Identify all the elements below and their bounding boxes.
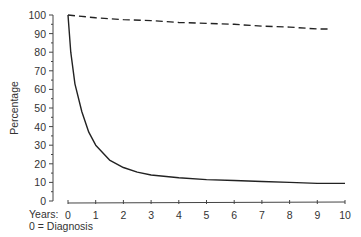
y-tick-label: 90 <box>34 28 46 40</box>
y-tick-label: 30 <box>34 139 46 151</box>
x-tick-label: 6 <box>231 209 237 221</box>
x-tick-label: 8 <box>287 209 293 221</box>
x-tick-label: 9 <box>314 209 320 221</box>
x-tick-label: 7 <box>259 209 265 221</box>
y-tick-label: 70 <box>34 65 46 77</box>
x-tick-label: 1 <box>93 209 99 221</box>
x-tick-label: 3 <box>148 209 154 221</box>
x-tick-label: 2 <box>120 209 126 221</box>
y-tick-label: 100 <box>28 9 46 21</box>
y-axis-title: Percentage <box>8 81 20 135</box>
y-tick-label: 50 <box>34 102 46 114</box>
y-tick-label: 80 <box>34 46 46 58</box>
y-tick-label: 20 <box>34 158 46 170</box>
line-chart: 0102030405060708090100012345678910Percen… <box>0 0 361 237</box>
x-tick-label: 5 <box>204 209 210 221</box>
series-dashed-line <box>68 15 331 29</box>
y-tick-label: 60 <box>34 83 46 95</box>
x-tick-label: 10 <box>339 209 351 221</box>
series-solid-line <box>68 15 345 183</box>
y-tick-label: 10 <box>34 176 46 188</box>
y-tick-label: 40 <box>34 121 46 133</box>
y-tick-label: 0 <box>40 195 46 207</box>
x-tick-label: 4 <box>176 209 182 221</box>
x-axis-note: 0 = Diagnosis <box>29 220 93 232</box>
x-axis-label: Years: <box>29 208 58 220</box>
